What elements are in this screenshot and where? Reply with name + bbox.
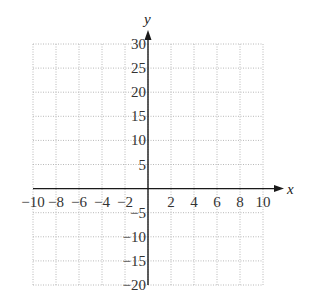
x-axis-arrow-icon [274,185,284,192]
x-tick-label: 4 [190,194,198,210]
y-tick-label: 25 [131,60,146,76]
x-tick-label: −8 [48,194,64,210]
y-tick-label: 20 [131,84,146,100]
y-axis-label: y [142,11,151,27]
x-axis-label: x [286,181,294,197]
x-tick-label: −10 [21,194,44,210]
y-tick-label: −10 [123,229,146,245]
x-tick-label: 2 [167,194,175,210]
y-tick-label: −5 [130,205,146,221]
coordinate-plane: −10−8−6−4−2246810 30252015105−5−10−15−20… [0,0,312,302]
y-tick-label: 15 [131,108,146,124]
x-tick-label: 6 [213,194,221,210]
y-tick-label: −15 [123,253,146,269]
x-tick-label: −6 [71,194,87,210]
x-tick-label: −4 [94,194,110,210]
y-tick-label: 5 [139,157,147,173]
x-tick-label: 10 [256,194,271,210]
y-tick-label: 10 [131,132,146,148]
x-tick-label: 8 [236,194,244,210]
y-tick-label: 30 [131,36,146,52]
y-tick-label: −20 [123,277,146,293]
